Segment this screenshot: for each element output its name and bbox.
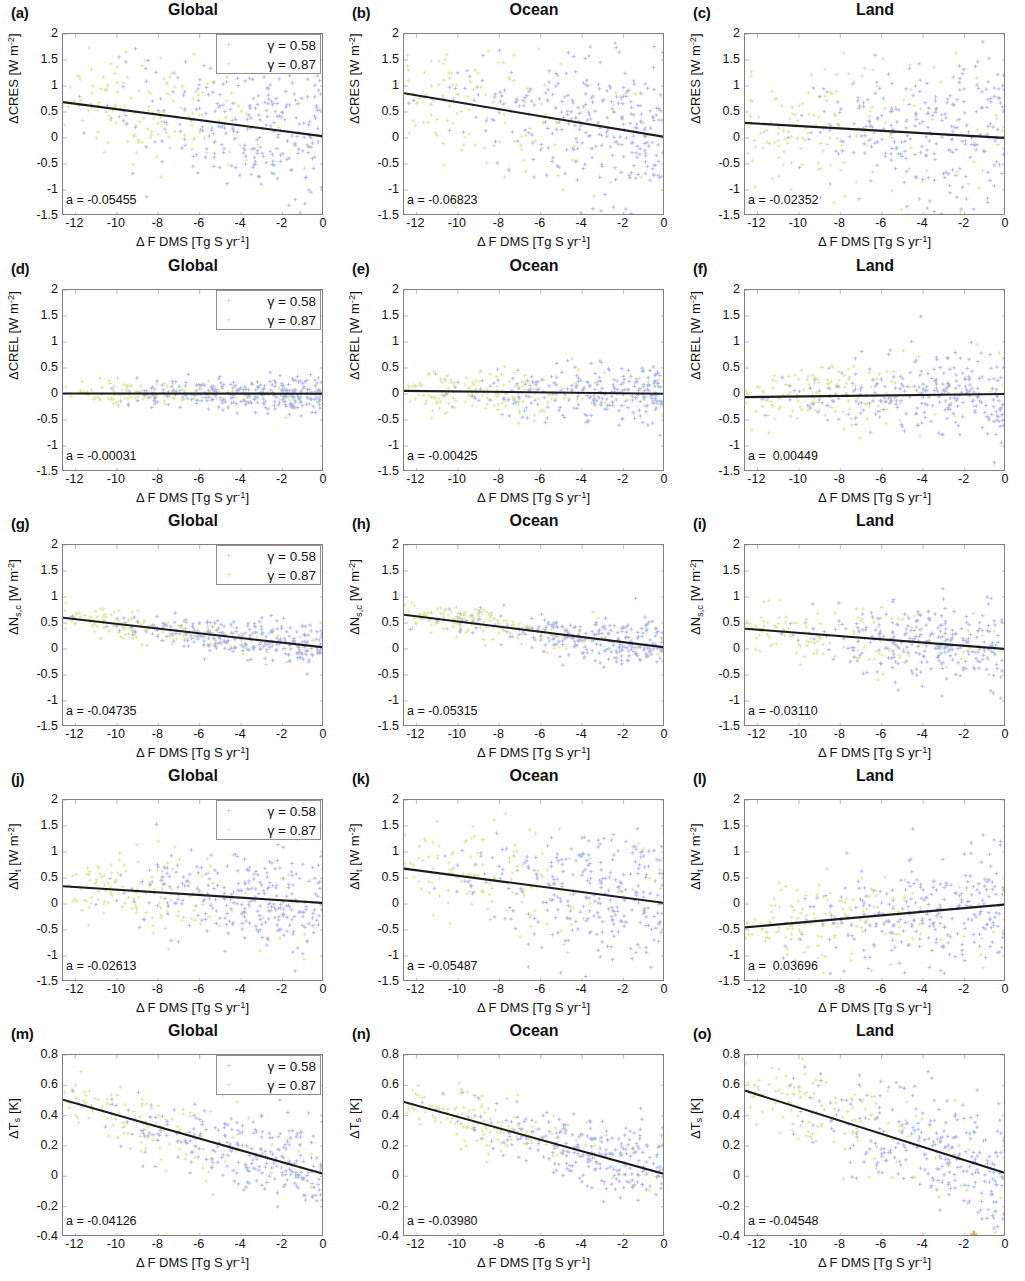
x-tick-label: -4 xyxy=(917,472,928,486)
y-tick-label: 1.5 xyxy=(41,52,58,66)
x-tick-label: -10 xyxy=(789,982,807,996)
x-tick-label: -2 xyxy=(958,1237,969,1251)
y-tick-label: -1 xyxy=(729,182,740,196)
x-tick-label: -8 xyxy=(493,727,504,741)
x-tick-label: 0 xyxy=(1002,727,1009,741)
slope-annotation-j: a = -0.02613 xyxy=(66,959,137,973)
x-tick-label: -10 xyxy=(448,472,466,486)
legend-entry: +γ = 0.87 xyxy=(217,310,316,330)
x-tick-label: -8 xyxy=(834,216,845,230)
x-tick-label: -10 xyxy=(789,216,807,230)
x-axis-ticks-o: -12-10-8-6-4-20 xyxy=(744,1237,1005,1257)
y-tick-label: 0.2 xyxy=(723,1138,740,1152)
panel-g: (g)Global21.510.50-0.5-1-1.5-12-10-8-6-4… xyxy=(0,511,341,767)
y-tick-label: 0.5 xyxy=(382,870,399,884)
x-tick-label: 0 xyxy=(1002,472,1009,486)
x-tick-label: -6 xyxy=(193,982,204,996)
x-tick-label: -6 xyxy=(193,727,204,741)
x-axis-label-j: Δ F DMS [Tg S yr-1] xyxy=(62,1000,323,1015)
x-tick-label: -2 xyxy=(617,472,628,486)
y-tick-label: 0.8 xyxy=(41,1047,58,1061)
y-tick-label: -0.4 xyxy=(377,1229,399,1243)
x-tick-label: 0 xyxy=(1002,1237,1009,1251)
x-tick-label: -10 xyxy=(107,982,125,996)
panel-title-d: Global xyxy=(62,257,324,275)
y-tick-label: 0.6 xyxy=(41,1077,58,1091)
y-tick-label: 2 xyxy=(392,792,399,806)
panel-i: (i)Land21.510.50-0.5-1-1.5-12-10-8-6-4-2… xyxy=(682,511,1023,767)
plot-area-h xyxy=(403,544,664,726)
x-axis-ticks-g: -12-10-8-6-4-20 xyxy=(62,727,323,747)
x-tick-label: -4 xyxy=(235,982,246,996)
plot-area-o xyxy=(744,1054,1005,1236)
x-tick-label: -4 xyxy=(917,1237,928,1251)
legend-label: γ = 0.58 xyxy=(268,804,316,819)
figure-panel-grid: (a)Global21.510.50-0.5-1-1.5-12-10-8-6-4… xyxy=(0,0,1025,1281)
x-tick-label: 0 xyxy=(320,216,327,230)
legend-marker-dot-icon: + xyxy=(226,318,231,323)
legend-label: γ = 0.87 xyxy=(268,57,316,72)
y-tick-label: -1 xyxy=(47,438,58,452)
x-axis-label-n: Δ F DMS [Tg S yr-1] xyxy=(403,1255,664,1270)
x-axis-ticks-f: -12-10-8-6-4-20 xyxy=(744,472,1005,492)
x-axis-label-a: Δ F DMS [Tg S yr-1] xyxy=(62,234,323,249)
panel-title-n: Ocean xyxy=(403,1022,665,1040)
panel-title-e: Ocean xyxy=(403,257,665,275)
x-tick-label: -6 xyxy=(875,727,886,741)
y-axis-label-j: ΔNt [W m-2] xyxy=(6,823,23,890)
x-tick-label: -8 xyxy=(834,472,845,486)
legend-m: +γ = 0.58+γ = 0.87 xyxy=(216,1055,321,1095)
slope-annotation-l: a = 0.03696 xyxy=(748,959,818,973)
x-tick-label: -12 xyxy=(747,1237,765,1251)
y-tick-label: -1.5 xyxy=(36,464,58,478)
x-tick-label: -10 xyxy=(107,727,125,741)
x-tick-label: -2 xyxy=(958,727,969,741)
y-tick-label: -1 xyxy=(47,948,58,962)
x-tick-label: -4 xyxy=(917,727,928,741)
panel-letter-k: (k) xyxy=(352,770,369,787)
y-tick-label: 2 xyxy=(733,792,740,806)
y-tick-label: -1 xyxy=(729,693,740,707)
legend-entry: +γ = 0.87 xyxy=(217,54,316,74)
x-tick-label: -4 xyxy=(917,216,928,230)
x-tick-label: 0 xyxy=(661,982,668,996)
slope-annotation-c: a = -0.02352 xyxy=(748,193,819,207)
y-tick-label: -1.5 xyxy=(36,719,58,733)
legend-entry: +γ = 0.87 xyxy=(217,820,316,840)
x-tick-label: -6 xyxy=(534,1237,545,1251)
y-tick-label: 0.4 xyxy=(41,1108,58,1122)
x-tick-label: 0 xyxy=(1002,982,1009,996)
y-tick-label: 1.5 xyxy=(41,308,58,322)
slope-annotation-n: a = -0.03980 xyxy=(407,1214,478,1228)
x-tick-label: -2 xyxy=(958,472,969,486)
y-tick-label: 0.6 xyxy=(723,1077,740,1091)
x-tick-label: 0 xyxy=(320,982,327,996)
panel-title-m: Global xyxy=(62,1022,324,1040)
panel-letter-o: (o) xyxy=(693,1025,711,1042)
y-tick-label: 2 xyxy=(392,282,399,296)
legend-d: +γ = 0.58+γ = 0.87 xyxy=(216,290,321,330)
y-tick-label: -0.5 xyxy=(377,922,399,936)
legend-marker-dot-icon: + xyxy=(226,43,231,48)
y-axis-label-m: ΔTs [K] xyxy=(6,1098,22,1139)
y-tick-label: 2 xyxy=(392,26,399,40)
legend-marker-dot-icon: + xyxy=(226,809,231,814)
y-tick-label: 0.5 xyxy=(723,360,740,374)
y-tick-label: 1.5 xyxy=(382,563,399,577)
x-tick-label: -2 xyxy=(617,727,628,741)
x-axis-label-c: Δ F DMS [Tg S yr-1] xyxy=(744,234,1005,249)
x-tick-label: -4 xyxy=(576,727,587,741)
legend-label: γ = 0.87 xyxy=(268,823,316,838)
x-tick-label: -4 xyxy=(576,1237,587,1251)
x-tick-label: -8 xyxy=(152,472,163,486)
y-tick-label: 1.5 xyxy=(382,818,399,832)
legend-label: γ = 0.58 xyxy=(268,294,316,309)
panel-letter-b: (b) xyxy=(352,4,370,21)
x-tick-label: -8 xyxy=(834,1237,845,1251)
x-tick-label: -2 xyxy=(617,1237,628,1251)
y-tick-label: 2 xyxy=(51,26,58,40)
x-tick-label: -6 xyxy=(193,1237,204,1251)
y-tick-label: 0 xyxy=(51,641,58,655)
y-tick-label: 0.2 xyxy=(41,1138,58,1152)
panel-letter-d: (d) xyxy=(11,260,29,277)
